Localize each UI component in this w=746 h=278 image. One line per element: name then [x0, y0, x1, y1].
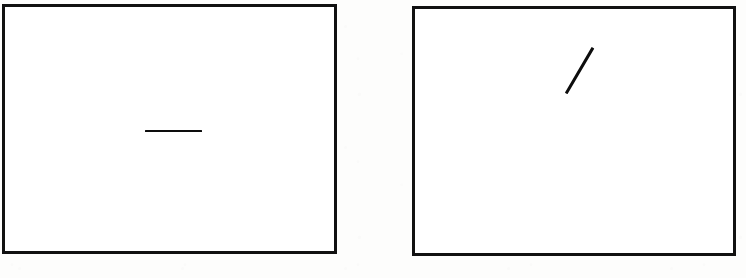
left-stimulus-panel — [2, 4, 337, 254]
left-panel-inner — [5, 7, 334, 251]
figure-root — [0, 0, 746, 278]
right-panel-inner — [415, 9, 733, 253]
caption-area — [0, 258, 746, 278]
right-stimulus-panel — [412, 6, 736, 256]
horizontal-line-stimulus — [145, 130, 202, 133]
oblique-line-stimulus — [565, 46, 594, 93]
